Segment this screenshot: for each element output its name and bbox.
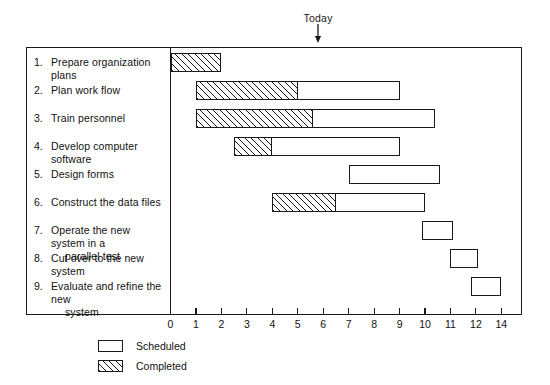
axis-tick-label: 1 <box>183 318 209 330</box>
task-label: Design forms <box>51 168 114 181</box>
task-label: Train personnel <box>51 112 125 125</box>
task-number: 2. <box>34 84 51 97</box>
x-axis-line <box>26 314 522 315</box>
axis-tick <box>399 308 400 314</box>
task-row-8: 8.Cut over to the new system <box>34 252 167 278</box>
task-label-line1: Design forms <box>51 168 114 180</box>
axis-tick-label: 6 <box>310 318 336 330</box>
axis-tick <box>450 308 451 314</box>
label-column-divider <box>170 47 171 314</box>
task-label: Cut over to the new system <box>51 252 167 278</box>
legend-item-scheduled: Scheduled <box>98 337 187 354</box>
axis-tick-label: 0 <box>158 318 184 330</box>
legend-swatch-scheduled <box>98 340 123 352</box>
scheduled-bar-9 <box>471 277 502 296</box>
gantt-chart: Today 1.Prepare organization plans2.Plan… <box>0 0 550 385</box>
axis-tick <box>475 308 476 314</box>
axis-tick <box>272 308 273 314</box>
task-number: 1. <box>34 56 51 69</box>
axis-tick-label: 4 <box>259 318 285 330</box>
scheduled-bar-7 <box>422 221 453 240</box>
task-label-line1: Construct the data files <box>51 196 161 208</box>
axis-tick-label: 8 <box>361 318 387 330</box>
legend-label-completed: Completed <box>136 360 187 372</box>
axis-tick-label: 14 <box>488 318 514 330</box>
legend-item-completed: Completed <box>98 357 187 374</box>
task-label: Plan work flow <box>51 84 120 97</box>
task-row-4: 4.Develop computer software <box>34 140 167 166</box>
today-arrow-icon <box>313 24 324 44</box>
task-label-line1: Plan work flow <box>51 84 120 96</box>
axis-tick <box>323 308 324 314</box>
scheduled-bar-8 <box>450 249 478 268</box>
completed-bar-4 <box>234 137 272 156</box>
task-label-line1: Cut over to the new system <box>51 252 144 277</box>
completed-bar-1 <box>171 53 222 72</box>
task-label-line1: Develop computer software <box>51 140 138 165</box>
axis-tick-label: 10 <box>412 318 438 330</box>
axis-tick-label: 11 <box>437 318 463 330</box>
axis-tick-label: 3 <box>234 318 260 330</box>
completed-bar-6 <box>272 193 336 212</box>
legend: ScheduledCompleted <box>98 337 187 377</box>
axis-tick <box>348 308 349 314</box>
task-number: 9. <box>34 280 51 293</box>
axis-tick <box>297 308 298 314</box>
task-label-line1: Prepare organization plans <box>51 56 150 81</box>
axis-tick-label: 9 <box>387 318 413 330</box>
today-marker: Today <box>278 12 358 24</box>
task-number: 5. <box>34 168 51 181</box>
task-row-3: 3.Train personnel <box>34 112 167 125</box>
task-label: Develop computer software <box>51 140 167 166</box>
axis-tick <box>501 308 502 314</box>
axis-tick <box>246 308 247 314</box>
legend-swatch-completed <box>98 360 123 372</box>
task-number: 6. <box>34 196 51 209</box>
task-label-line1: Evaluate and refine the new <box>51 280 161 305</box>
task-row-5: 5.Design forms <box>34 168 167 181</box>
task-number: 4. <box>34 140 51 153</box>
task-number: 8. <box>34 252 51 265</box>
task-label-line1: Operate the new system in a <box>51 224 130 249</box>
axis-tick-label: 5 <box>285 318 311 330</box>
completed-bar-2 <box>196 81 298 100</box>
scheduled-bar-5 <box>349 165 441 184</box>
axis-tick <box>221 308 222 314</box>
task-row-2: 2.Plan work flow <box>34 84 167 97</box>
task-label: Prepare organization plans <box>51 56 167 82</box>
completed-bar-3 <box>196 109 313 128</box>
task-row-6: 6.Construct the data files <box>34 196 167 209</box>
axis-tick <box>424 308 425 314</box>
today-label: Today <box>278 12 358 24</box>
legend-label-scheduled: Scheduled <box>136 340 186 352</box>
task-number: 7. <box>34 224 51 237</box>
axis-tick-label: 7 <box>336 318 362 330</box>
axis-tick-label: 12 <box>463 318 489 330</box>
axis-tick <box>195 308 196 314</box>
task-label-line1: Train personnel <box>51 112 125 124</box>
task-label-line2: system <box>51 306 167 319</box>
axis-tick <box>374 308 375 314</box>
task-label: Construct the data files <box>51 196 161 209</box>
task-number: 3. <box>34 112 51 125</box>
task-row-1: 1.Prepare organization plans <box>34 56 167 82</box>
axis-tick-label: 2 <box>208 318 234 330</box>
